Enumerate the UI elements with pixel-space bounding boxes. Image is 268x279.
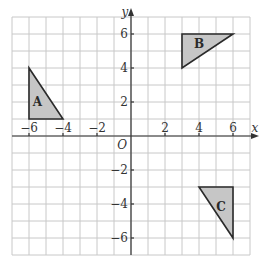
x-tick-label: −6 [20,121,38,135]
x-axis-label: x [252,121,259,135]
y-axis-arrow-icon [128,8,134,16]
x-tick-label: 6 [229,121,237,135]
x-tick-label: −4 [54,121,72,135]
triangle-label-b: B [194,37,204,51]
x-tick-label: 2 [161,121,169,135]
y-axis-label: y [121,5,129,19]
x-tick-label: 4 [195,121,203,135]
y-tick-label: −2 [110,163,128,177]
triangle-label-c: C [216,200,226,214]
y-tick-label: −4 [110,197,128,211]
coordinate-grid: ABC −6−4−2246642−2−4−6Oxy [0,0,268,279]
y-tick-label: 6 [120,27,128,41]
triangle-label-a: A [32,95,43,109]
x-tick-label: −2 [88,121,106,135]
y-tick-label: 2 [120,95,128,109]
y-tick-label: −6 [110,231,128,245]
y-tick-label: 4 [120,61,128,75]
origin-label: O [117,138,127,152]
